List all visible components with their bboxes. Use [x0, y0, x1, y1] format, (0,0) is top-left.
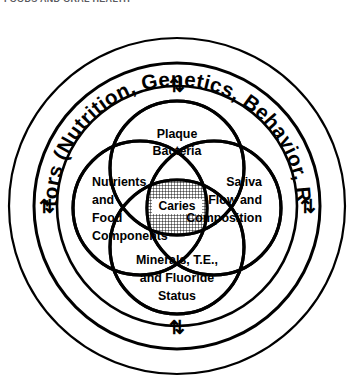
- label-minerals-line-2: Status: [158, 289, 196, 303]
- label-plaque-bacteria-line-0: Plaque: [157, 127, 198, 141]
- arrow-top-icon: ⇅: [169, 75, 185, 96]
- label-minerals-line-0: Minerals, T.E.,: [136, 253, 218, 267]
- running-header: FOODS AND ORAL HEALTH: [4, 0, 204, 6]
- label-nutrients-line-1: and: [92, 193, 114, 207]
- label-minerals-te-and-fluoride-status: Minerals, T.E., and Fluoride Status: [136, 253, 218, 303]
- figure-canvas: Host Factors (Nutrition, Genetics, Behav…: [0, 14, 353, 384]
- label-plaque-bacteria-line-1: Bacteria: [153, 144, 202, 158]
- outer-ring-text: Host Factors (Nutrition, Genetics, Behav…: [0, 14, 316, 207]
- label-nutrients-line-2: Food: [92, 211, 122, 225]
- arrow-right-icon: ⇅: [300, 196, 316, 217]
- caries-venn-figure: Host Factors (Nutrition, Genetics, Behav…: [0, 14, 353, 384]
- label-nutrients-line-3: Components: [92, 229, 168, 243]
- label-nutrients-line-0: Nutrients: [92, 175, 146, 189]
- outer-ring-text-path: Host Factors (Nutrition, Genetics, Behav…: [0, 14, 316, 207]
- label-saliva-line-1: Flow and: [208, 193, 262, 207]
- arrow-bottom-icon: ⇅: [169, 317, 185, 338]
- label-minerals-line-1: and Fluoride: [140, 271, 214, 285]
- label-saliva-line-0: Saliva: [226, 175, 262, 189]
- arrow-left-icon: ⇅: [39, 196, 55, 217]
- label-saliva-line-2: Composition: [186, 211, 262, 225]
